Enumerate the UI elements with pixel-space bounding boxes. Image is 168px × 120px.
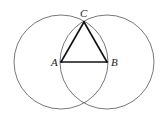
- label-c: C: [80, 7, 88, 19]
- point-b: [106, 61, 108, 63]
- point-a: [60, 61, 62, 63]
- triangle-abc: [61, 22, 107, 62]
- point-c: [83, 21, 85, 23]
- label-b: B: [111, 56, 118, 68]
- label-a: A: [50, 56, 58, 68]
- construction-diagram: A B C: [0, 0, 168, 120]
